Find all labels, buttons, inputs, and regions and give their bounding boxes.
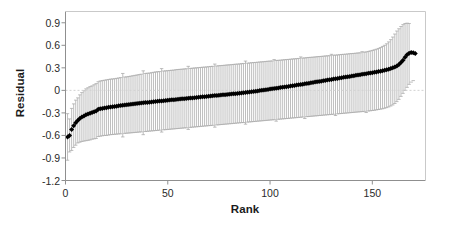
residual-rank-chart: Residual 0.90.60.30-0.3-0.6-0.9-1.2 0501… [0,0,449,231]
plot-area [0,0,449,231]
x-axis-title: Rank [65,203,425,215]
